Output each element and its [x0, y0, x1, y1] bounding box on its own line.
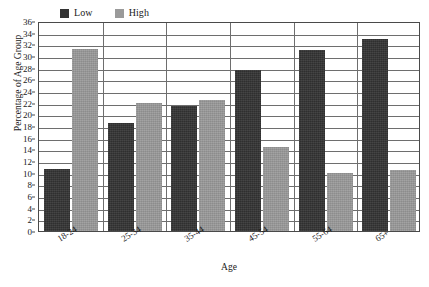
y-tick-mark: [32, 33, 35, 34]
bar-high-65+: [390, 170, 416, 231]
y-tick-mark: [32, 22, 35, 23]
y-axis-title: Percentage of Age Group: [13, 13, 23, 153]
y-tick-label: 34: [23, 29, 32, 38]
y-tick-mark: [32, 208, 35, 209]
legend-entry-low[interactable]: Low: [60, 8, 93, 18]
y-tick-label: 10: [23, 169, 32, 178]
legend-swatch-low-icon: [60, 9, 69, 18]
bar-high-18-24: [72, 49, 98, 231]
bar-chart: Low High 0246810121416182022242628303234…: [0, 0, 429, 287]
y-tick-mark: [32, 138, 35, 139]
plot-area: [38, 22, 420, 232]
y-tick-label: 26: [23, 76, 32, 85]
bar-low-45-54: [235, 70, 261, 231]
y-tick-label: 28: [23, 64, 32, 73]
bar-low-18-24: [44, 169, 70, 231]
legend-entry-high[interactable]: High: [115, 8, 149, 18]
y-tick-mark: [32, 57, 35, 58]
bar-high-25-34: [136, 103, 162, 231]
bar-high-35-44: [199, 100, 225, 231]
chart-legend: Low High: [60, 6, 149, 20]
bar-high-55-64: [327, 173, 353, 231]
y-tick-label: 16: [23, 134, 32, 143]
bar-low-55-64: [299, 50, 325, 231]
y-tick-label: 22: [23, 99, 32, 108]
y-tick-mark: [32, 150, 35, 151]
y-tick-label: 18: [23, 123, 32, 132]
y-tick-mark: [32, 197, 35, 198]
bar-low-65+: [362, 39, 388, 231]
bar-low-35-44: [171, 106, 197, 231]
y-tick-mark: [32, 103, 35, 104]
y-tick-mark: [32, 127, 35, 128]
legend-swatch-high-icon: [115, 9, 124, 18]
x-axis-title: Age: [38, 262, 420, 272]
y-tick-mark: [32, 92, 35, 93]
bar-high-45-54: [263, 147, 289, 231]
y-tick-label: 24: [23, 88, 32, 97]
y-tick-mark: [32, 80, 35, 81]
y-tick-label: 14: [23, 146, 32, 155]
y-tick-label: 36: [23, 18, 32, 27]
y-tick-label: 32: [23, 41, 32, 50]
y-tick-mark: [32, 232, 35, 233]
y-tick-label: 30: [23, 53, 32, 62]
y-tick-mark: [32, 45, 35, 46]
y-tick-label: 12: [23, 158, 32, 167]
y-tick-label: 20: [23, 111, 32, 120]
y-tick-mark: [32, 220, 35, 221]
y-tick-mark: [32, 185, 35, 186]
y-tick-mark: [32, 173, 35, 174]
bars-layer: [39, 23, 419, 231]
legend-label-low: Low: [74, 8, 93, 18]
legend-label-high: High: [129, 8, 149, 18]
bar-low-25-34: [108, 123, 134, 231]
y-tick-mark: [32, 68, 35, 69]
y-tick-mark: [32, 162, 35, 163]
y-tick-mark: [32, 115, 35, 116]
